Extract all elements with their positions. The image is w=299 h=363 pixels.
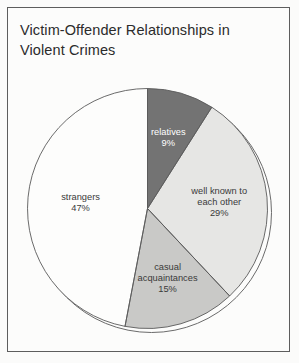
chart-title-line-2: Violent Crimes: [20, 40, 270, 60]
pie-chart-figure: Victim-Offender Relationships in Violent…: [0, 0, 299, 363]
chart-title-line-1: Victim-Offender Relationships in: [20, 20, 270, 40]
chart-title: Victim-Offender Relationships in Violent…: [20, 20, 270, 60]
